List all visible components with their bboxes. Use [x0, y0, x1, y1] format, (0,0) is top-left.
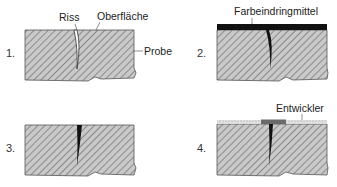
specimen-block — [25, 30, 136, 81]
penetrant-testing-diagram: 1. Riss Oberfläche Probe 2. Farbeindring… — [0, 0, 337, 187]
step-number: 1. — [6, 47, 15, 59]
developer-label: Entwickler — [276, 102, 324, 114]
panel-2: 2. Farbeindringmittel — [197, 5, 328, 81]
penetrant-layer — [217, 24, 327, 30]
surface-leader-line — [96, 22, 100, 30]
step-number: 3. — [6, 142, 15, 154]
specimen-block — [217, 30, 328, 81]
crack-leader-line — [75, 24, 77, 30]
developer-stain — [261, 120, 286, 125]
penetrant-label: Farbeindringmittel — [234, 5, 318, 17]
surface-label: Oberfläche — [97, 10, 149, 22]
specimen-label: Probe — [144, 45, 172, 57]
panel-3: 3. — [6, 125, 136, 176]
step-number: 4. — [197, 142, 206, 154]
panel-1: 1. Riss Oberfläche Probe — [6, 10, 172, 81]
panel-4: 4. Entwickler — [197, 102, 328, 176]
crack-label: Riss — [59, 11, 79, 23]
step-number: 2. — [197, 47, 206, 59]
